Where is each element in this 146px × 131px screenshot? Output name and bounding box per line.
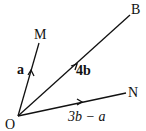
vector-4b-label: 4b <box>76 64 91 78</box>
vector-a-label: a <box>17 63 24 77</box>
vector-om-line <box>18 43 39 116</box>
point-m-label: M <box>34 28 46 42</box>
point-b-label: B <box>131 3 140 17</box>
point-n-label: N <box>128 86 138 100</box>
vector-3b-minus-a-label: 3b − a <box>68 110 105 124</box>
point-o-label: O <box>5 118 15 131</box>
arrow-on-icon <box>77 99 82 105</box>
